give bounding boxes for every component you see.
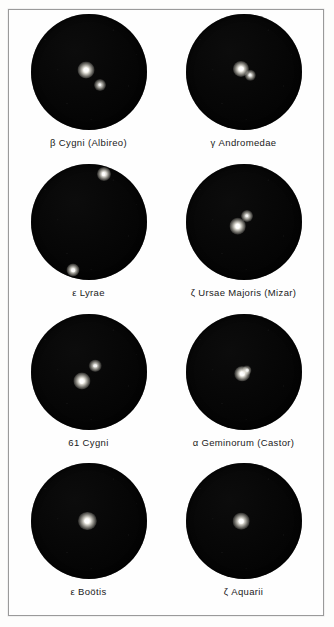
panel-caption-alpha-geminorum: α Geminorum (Castor) — [193, 437, 295, 449]
star-core — [239, 519, 244, 524]
star-core — [249, 74, 252, 77]
panel-caption-epsilon-bootis: ε Boötis — [70, 586, 106, 598]
star-panel-epsilon-lyrae: ε Lyrae — [13, 164, 165, 299]
star-panel-gamma-andromedae: γ Andromedae — [168, 14, 320, 149]
panel-caption-epsilon-lyrae: ε Lyrae — [72, 287, 105, 299]
star-panel-zeta-aquarii: ζ Aquarii — [168, 463, 320, 598]
star-core — [84, 67, 89, 72]
panel-row: β Cygni (Albireo)γ Andromedae — [11, 14, 321, 164]
telescope-field-alpha-geminorum — [186, 314, 302, 430]
star-core — [246, 369, 249, 372]
star-panel-61-cygni: 61 Cygni — [13, 314, 165, 449]
panel-caption-61-cygni: 61 Cygni — [68, 437, 108, 449]
telescope-field-beta-cygni — [31, 14, 147, 130]
telescope-field-gamma-andromedae — [186, 14, 302, 130]
panel-row: ε Boötisζ Aquarii — [11, 463, 321, 613]
star-core — [79, 378, 84, 383]
panel-caption-gamma-andromedae: γ Andromedae — [211, 137, 277, 149]
telescope-view-grid: β Cygni (Albireo)γ Andromedaeε Lyraeζ Ur… — [9, 10, 323, 615]
panel-caption-beta-cygni: β Cygni (Albireo) — [50, 137, 127, 149]
star-core — [72, 269, 76, 273]
star-panel-epsilon-bootis: ε Boötis — [13, 463, 165, 598]
star-core — [85, 519, 90, 524]
star-panel-alpha-geminorum: α Geminorum (Castor) — [168, 314, 320, 449]
star-core — [102, 172, 106, 176]
panel-caption-zeta-ursae-majoris: ζ Ursae Majoris (Mizar) — [191, 287, 297, 299]
telescope-field-epsilon-bootis — [31, 463, 147, 579]
telescope-field-epsilon-lyrae — [31, 164, 147, 280]
telescope-field-zeta-ursae-majoris — [186, 164, 302, 280]
star-core — [235, 224, 240, 229]
star-panel-zeta-ursae-majoris: ζ Ursae Majoris (Mizar) — [168, 164, 320, 299]
panel-row: ε Lyraeζ Ursae Majoris (Mizar) — [11, 164, 321, 314]
plate: β Cygni (Albireo)γ Andromedaeε Lyraeζ Ur… — [0, 0, 334, 627]
telescope-field-61-cygni — [31, 314, 147, 430]
star-panel-beta-cygni: β Cygni (Albireo) — [13, 14, 165, 149]
telescope-field-zeta-aquarii — [186, 463, 302, 579]
panel-row: 61 Cygniα Geminorum (Castor) — [11, 314, 321, 464]
panel-caption-zeta-aquarii: ζ Aquarii — [224, 586, 264, 598]
